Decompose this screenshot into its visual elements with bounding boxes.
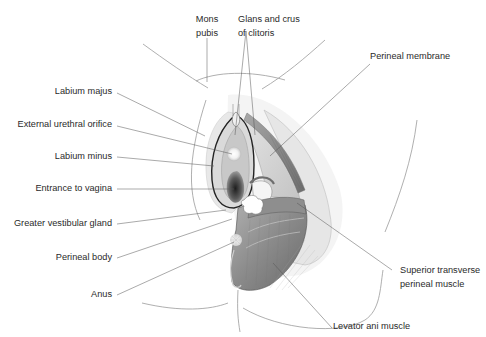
label-levator-ani-muscle: Levator ani muscle (333, 320, 410, 333)
label-superior-transverse-perineal-muscle-line2: perineal muscle (400, 278, 464, 291)
label-entrance-to-vagina: Entrance to vagina (0, 182, 112, 195)
label-mons-pubis-line1: Mons (188, 13, 226, 26)
label-glans-crus-clitoris-line2: of clitoris (238, 27, 274, 40)
label-labium-minus: Labium minus (0, 150, 112, 163)
label-superior-transverse-perineal-muscle-line1: Superior transverse (400, 264, 480, 277)
external-urethral-orifice (227, 147, 241, 161)
label-anus: Anus (0, 288, 112, 301)
label-labium-majus: Labium majus (0, 85, 112, 98)
label-perineal-body: Perineal body (0, 251, 112, 264)
levator-ani-muscle (231, 201, 307, 291)
label-perineal-membrane: Perineal membrane (370, 50, 450, 63)
label-greater-vestibular-gland: Greater vestibular gland (0, 217, 112, 230)
label-external-urethral-orifice: External urethral orifice (0, 118, 112, 131)
label-mons-pubis-line2: pubis (188, 27, 226, 40)
label-glans-crus-clitoris-line1: Glans and crus (238, 13, 300, 26)
